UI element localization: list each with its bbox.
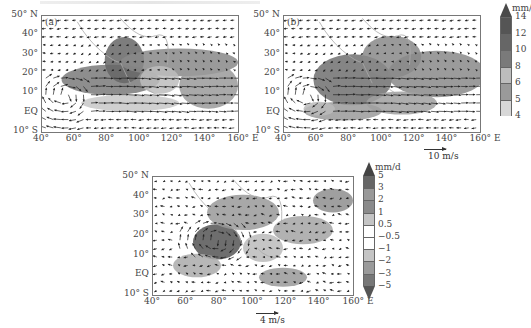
lon-tick-label: 120° xyxy=(274,296,296,306)
colorbar-diff-level-label: −1 xyxy=(378,243,391,253)
colorbar-diff-segment xyxy=(363,274,375,286)
colorbar-precip-level-label: 12 xyxy=(515,28,526,38)
colorbar-diff-level-label: −2 xyxy=(378,255,391,265)
lat-tick-label: 40° xyxy=(117,190,149,200)
colorbar-diff-segment xyxy=(363,261,375,273)
colorbar-diff-top-arrow xyxy=(363,162,375,176)
lat-tick-label: 10° xyxy=(248,86,280,96)
lat-tick-label: 40° xyxy=(6,28,38,38)
map-panel-a: (a) xyxy=(41,15,239,133)
colorbar-diff-bottom-arrow xyxy=(363,286,375,300)
lat-tick-label: EQ xyxy=(117,268,149,278)
lon-tick-label: 160° E xyxy=(469,133,500,143)
lon-tick-label: 100° xyxy=(370,133,392,143)
panel-label: (b) xyxy=(287,17,300,27)
colorbar-precip-segment xyxy=(500,100,512,117)
colorbar-diff-level-label: −5 xyxy=(378,280,391,290)
map-plot xyxy=(42,16,238,132)
colorbar-precip-level-label: 6 xyxy=(515,77,521,87)
colorbar-precip-bottom-arrow xyxy=(500,116,512,130)
lat-tick-label: 20° xyxy=(248,67,280,77)
lon-tick-label: 60° xyxy=(308,133,324,143)
lon-tick-label: 120° xyxy=(403,133,425,143)
lat-tick-label: 20° xyxy=(6,67,38,77)
lon-tick-label: 40° xyxy=(144,296,160,306)
panel-label: (a) xyxy=(45,17,57,27)
map-plot xyxy=(284,16,480,132)
colorbar-diff-segment xyxy=(363,188,375,200)
lat-tick-label: 20° xyxy=(117,229,149,239)
lon-tick-label: 120° xyxy=(161,133,183,143)
colorbar-diff-level-label: 5 xyxy=(378,170,384,180)
colorbar-precip-segment xyxy=(500,50,512,67)
colorbar-precip-top-arrow xyxy=(500,3,512,17)
lat-tick-label: 50° N xyxy=(6,9,38,19)
colorbar-diff-segment xyxy=(363,213,375,225)
colorbar-diff-segment xyxy=(363,249,375,261)
colorbar-diff-segment xyxy=(363,237,375,249)
lat-tick-label: 10° xyxy=(6,86,38,96)
colorbar-diff-level-label: 0.5 xyxy=(378,219,392,229)
colorbar-precip-segment xyxy=(500,17,512,34)
caption-fragment xyxy=(40,0,260,6)
lon-tick-label: 100° xyxy=(128,133,150,143)
lat-tick-label: 30° xyxy=(117,209,149,219)
colorbar-diff-level-label: 3 xyxy=(378,182,384,192)
colorbar-precip-level-label: 4 xyxy=(515,110,521,120)
colorbar-precip-level-label: 10 xyxy=(515,44,526,54)
colorbar-precip-level-label: 8 xyxy=(515,61,521,71)
lon-tick-label: 80° xyxy=(211,296,227,306)
lon-tick-label: 80° xyxy=(340,133,356,143)
lon-tick-label: 140° xyxy=(435,133,457,143)
map-plot xyxy=(153,177,353,295)
lat-tick-label: 30° xyxy=(248,48,280,58)
lon-tick-label: 60° xyxy=(177,296,193,306)
lat-tick-label: 40° xyxy=(248,28,280,38)
reference-vector-10-arrow xyxy=(424,149,446,150)
colorbar-diff-segment xyxy=(363,225,375,237)
colorbar-diff-level-label: −3 xyxy=(378,268,391,278)
colorbar-diff-level-label: −0.5 xyxy=(378,231,400,241)
lat-tick-label: 50° N xyxy=(117,170,149,180)
map-panel-b: (b) xyxy=(283,15,481,133)
lat-tick-label: 10° xyxy=(117,249,149,259)
map-panel-c xyxy=(152,176,354,296)
lon-tick-label: 40° xyxy=(275,133,291,143)
colorbar-precip-level-label: 14 xyxy=(515,11,526,21)
lon-tick-label: 40° xyxy=(33,133,49,143)
lat-tick-label: 50° N xyxy=(248,9,280,19)
lon-tick-label: 100° xyxy=(241,296,263,306)
reference-vector-4-arrow xyxy=(256,313,278,314)
colorbar-precip-segment xyxy=(500,83,512,100)
colorbar-diff-segment xyxy=(363,200,375,212)
reference-vector-10-label: 10 m/s xyxy=(428,151,459,161)
lat-tick-label: EQ xyxy=(6,106,38,116)
lon-tick-label: 140° xyxy=(308,296,330,306)
lon-tick-label: 80° xyxy=(98,133,114,143)
lat-tick-label: EQ xyxy=(248,106,280,116)
lon-tick-label: 60° xyxy=(66,133,82,143)
lat-tick-label: 30° xyxy=(6,48,38,58)
colorbar-precip-level-label: 5 xyxy=(515,94,521,104)
colorbar-precip-segment xyxy=(500,67,512,84)
lon-tick-label: 140° xyxy=(193,133,215,143)
reference-vector-4-label: 4 m/s xyxy=(260,315,285,325)
colorbar-diff-level-label: 1 xyxy=(378,207,384,217)
colorbar-diff-level-label: 2 xyxy=(378,194,384,204)
colorbar-diff-segment xyxy=(363,176,375,188)
colorbar-precip-segment xyxy=(500,34,512,51)
